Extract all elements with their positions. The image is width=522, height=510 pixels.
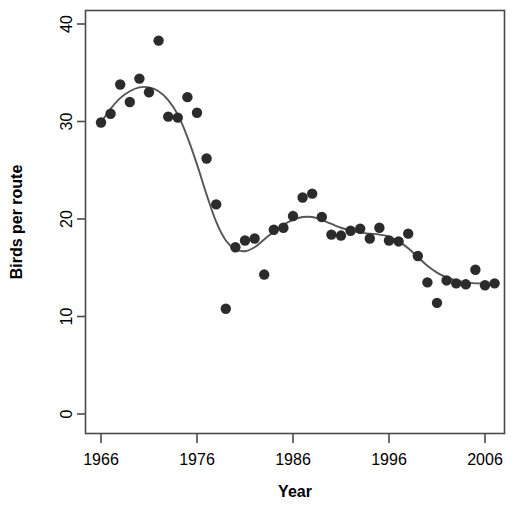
- data-point: [153, 35, 163, 45]
- data-point: [211, 199, 221, 209]
- data-point: [173, 112, 183, 122]
- data-point: [269, 225, 279, 235]
- y-tick-label-10: 10: [58, 308, 75, 326]
- data-point: [470, 265, 480, 275]
- data-point: [326, 229, 336, 239]
- y-axis-title: Birds per route: [8, 165, 25, 280]
- data-point: [288, 211, 298, 221]
- x-tick-label-1976: 1976: [179, 451, 215, 468]
- data-point: [365, 233, 375, 243]
- data-point: [115, 79, 125, 89]
- data-point: [336, 230, 346, 240]
- data-point: [221, 304, 231, 314]
- data-point: [451, 278, 461, 288]
- data-point: [441, 275, 451, 285]
- scatter-plot-svg: 010203040 19661976198619962006 Year Bird…: [0, 0, 522, 510]
- data-points-group: [96, 35, 500, 314]
- data-point: [345, 226, 355, 236]
- x-tick-label-1986: 1986: [275, 451, 311, 468]
- data-point: [374, 223, 384, 233]
- y-axis-tick-marks: [77, 24, 85, 414]
- data-point: [393, 236, 403, 246]
- data-point: [134, 73, 144, 83]
- data-point: [192, 108, 202, 118]
- data-point: [259, 269, 269, 279]
- x-axis-tick-labels: 19661976198619962006: [83, 451, 503, 468]
- y-tick-label-20: 20: [58, 210, 75, 228]
- x-tick-label-1996: 1996: [371, 451, 407, 468]
- data-point: [384, 235, 394, 245]
- data-point: [489, 278, 499, 288]
- smoothed-trend-line: [101, 87, 495, 284]
- y-tick-label-40: 40: [58, 15, 75, 33]
- data-point: [461, 279, 471, 289]
- data-point: [403, 228, 413, 238]
- x-axis-title: Year: [278, 483, 312, 500]
- x-tick-label-2006: 2006: [467, 451, 503, 468]
- data-point: [249, 233, 259, 243]
- x-axis-tick-marks: [101, 434, 485, 443]
- data-point: [278, 223, 288, 233]
- data-point: [163, 111, 173, 121]
- data-point: [201, 153, 211, 163]
- data-point: [413, 251, 423, 261]
- plot-frame: [86, 11, 505, 434]
- data-point: [125, 97, 135, 107]
- x-tick-label-1966: 1966: [83, 451, 119, 468]
- data-point: [182, 92, 192, 102]
- data-point: [307, 188, 317, 198]
- data-point: [432, 298, 442, 308]
- data-point: [96, 117, 106, 127]
- data-point: [297, 192, 307, 202]
- y-tick-label-0: 0: [58, 409, 75, 418]
- y-axis-tick-labels: 010203040: [58, 15, 75, 418]
- data-point: [230, 242, 240, 252]
- data-point: [240, 235, 250, 245]
- data-point: [144, 87, 154, 97]
- chart-figure: 010203040 19661976198619962006 Year Bird…: [0, 0, 522, 510]
- y-tick-label-30: 30: [58, 113, 75, 131]
- data-point: [422, 277, 432, 287]
- data-point: [355, 224, 365, 234]
- data-point: [105, 109, 115, 119]
- data-point: [480, 280, 490, 290]
- data-point: [317, 212, 327, 222]
